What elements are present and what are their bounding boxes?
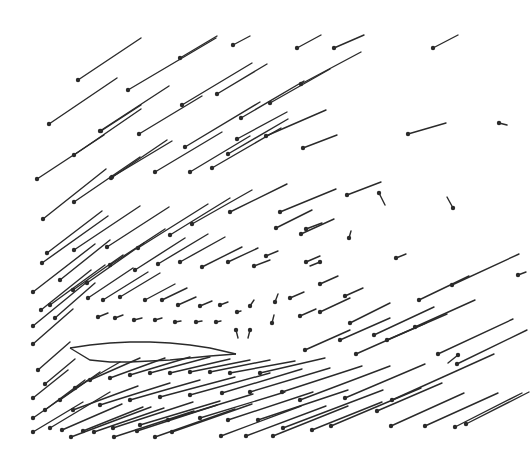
vector-origin-dot — [417, 298, 421, 302]
vector — [178, 237, 225, 264]
vector-origin-dot — [72, 248, 76, 252]
vector-origin-dot — [299, 82, 303, 86]
vector — [138, 401, 220, 427]
vector-origin-dot — [375, 409, 379, 413]
vector-origin-dot — [214, 320, 218, 324]
vector-origin-dot — [295, 46, 299, 50]
vector — [194, 320, 202, 324]
vector — [72, 157, 140, 204]
vector-origin-dot — [348, 321, 352, 325]
vector — [226, 119, 288, 156]
vector-origin-dot — [252, 264, 256, 268]
vector-origin-dot — [318, 260, 322, 264]
vector — [218, 302, 228, 307]
vector-origin-dot — [176, 303, 180, 307]
vector-origin-dot — [31, 342, 35, 346]
vector — [252, 260, 270, 268]
vector — [178, 36, 217, 60]
vector — [447, 197, 455, 210]
vector-origin-dot — [153, 170, 157, 174]
vector — [304, 223, 322, 231]
airfoil-lower-surface — [70, 348, 236, 362]
vector-origin-dot — [160, 298, 164, 302]
vector — [31, 370, 68, 400]
vector-origin-dot — [58, 398, 62, 402]
vector-origin-dot — [273, 300, 277, 304]
vector-origin-dot — [86, 296, 90, 300]
vector-origin-dot — [31, 396, 35, 400]
vector — [173, 320, 181, 324]
vector — [268, 69, 330, 105]
vector-origin-dot — [231, 43, 235, 47]
vector — [448, 353, 460, 363]
vector-origin-dot — [456, 353, 460, 357]
vector — [96, 313, 108, 319]
vector — [389, 393, 464, 428]
vector — [136, 204, 208, 250]
vector-origin-dot — [208, 370, 212, 374]
vector-origin-dot — [516, 273, 520, 277]
vector-origin-dot — [158, 395, 162, 399]
vector — [343, 364, 425, 400]
vector-origin-dot — [281, 426, 285, 430]
vector — [48, 265, 105, 307]
vector — [431, 35, 458, 50]
vector-origin-dot — [226, 418, 230, 422]
vector-origin-dot — [153, 318, 157, 322]
vector-origin-dot — [264, 254, 268, 258]
vector-origin-dot — [278, 210, 282, 214]
vector — [133, 238, 185, 272]
vector-origin-dot — [343, 396, 347, 400]
vector-origin-dot — [98, 403, 102, 407]
vector-origin-dot — [153, 435, 157, 439]
vector — [270, 315, 274, 325]
vector — [348, 303, 390, 325]
vector-origin-dot — [299, 232, 303, 236]
vector-origin-dot — [178, 56, 182, 60]
vector-origin-dot — [105, 245, 109, 249]
vector-origin-dot — [71, 408, 75, 412]
vector-origin-dot — [244, 434, 248, 438]
vector — [338, 318, 390, 342]
vector — [516, 272, 526, 277]
vector-origin-dot — [92, 430, 96, 434]
vector-origin-dot — [298, 314, 302, 318]
vector-origin-dot — [394, 256, 398, 260]
vector — [464, 392, 529, 426]
vector-origin-dot — [219, 434, 223, 438]
vector-origin-dot — [69, 435, 73, 439]
vector-origin-dot — [118, 295, 122, 299]
vector — [497, 121, 507, 125]
vector-origin-dot — [188, 393, 192, 397]
vector-origin-dot — [318, 282, 322, 286]
vector-origin-dot — [132, 318, 136, 322]
vector-origin-dot — [73, 386, 77, 390]
vector-origin-dot — [43, 408, 47, 412]
vector-origin-dot — [347, 236, 351, 240]
vector-origin-dot — [108, 376, 112, 380]
vector — [226, 248, 258, 264]
vector — [153, 318, 162, 322]
vector-origin-dot — [31, 430, 35, 434]
vector-origin-dot — [173, 320, 177, 324]
vector-origin-dot — [48, 426, 52, 430]
vector-origin-dot — [128, 373, 132, 377]
vector-origin-dot — [101, 298, 105, 302]
vector-origin-dot — [239, 116, 243, 120]
vector-origin-dot — [215, 92, 219, 96]
vector-origin-dot — [464, 422, 468, 426]
vector-origin-dot — [39, 308, 43, 312]
vector — [168, 198, 230, 237]
vector-field-plot — [0, 0, 532, 473]
vector-origin-dot — [112, 435, 116, 439]
vector-origin-dot — [389, 424, 393, 428]
vector — [273, 294, 278, 304]
vector — [303, 330, 350, 352]
vector — [105, 207, 169, 249]
vector-origin-dot — [268, 101, 272, 105]
vector — [298, 309, 316, 318]
vector-origin-dot — [288, 296, 292, 300]
vector-origin-dot — [270, 321, 274, 325]
vector-origin-dot — [168, 371, 172, 375]
vector — [190, 190, 252, 226]
